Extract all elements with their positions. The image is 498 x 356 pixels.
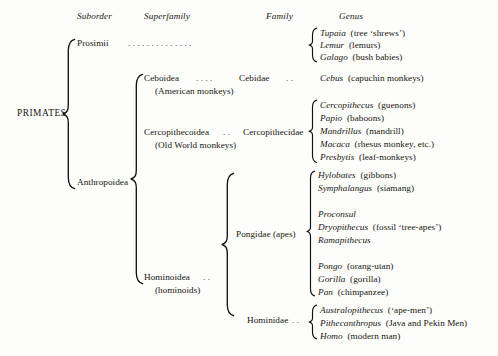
genus-name: Ramapithecus	[318, 235, 371, 245]
leader-hominoidea-family: . .	[203, 272, 210, 282]
genus-row: Macaca (rhesus monkey, etc.)	[320, 139, 434, 149]
classification-chart: Suborder Superfamily Family Genus PRIMAT…	[0, 0, 498, 356]
genus-row: Hylobates (gibbons)	[318, 170, 396, 180]
genus-row: Proconsul	[318, 209, 356, 219]
genus-common: (gibbons)	[358, 170, 396, 180]
genus-common: (mandrill)	[364, 126, 404, 136]
column-header-superfamily: Superfamily	[144, 11, 190, 21]
genus-common: (fossil ‘tree-apes’)	[370, 222, 441, 232]
genus-row: Gorilla (gorilla)	[318, 274, 381, 284]
genus-name: Lemur	[320, 40, 344, 50]
genus-common: (guenons)	[376, 100, 416, 110]
genus-row: Pan (chimpanzee)	[318, 287, 388, 297]
genus-name: Pithecanthropus	[320, 318, 381, 328]
genus-common: (capuchin monkeys)	[346, 73, 424, 83]
leader-cebidae-genus: . .	[286, 73, 293, 83]
brace-pongidae-genera	[306, 170, 316, 298]
genus-common: (rhesus monkey, etc.)	[352, 139, 434, 149]
genus-row: Lemur (lemurs)	[320, 40, 380, 50]
suborder-anthropoidea: Anthropoidea	[77, 177, 128, 187]
family-cercopithecidae: Cercopithecidae	[243, 127, 303, 137]
genus-name: Homo	[320, 331, 343, 341]
superfamily-ceboidea: Ceboidea	[144, 73, 179, 83]
brace-hominoidea	[221, 172, 235, 317]
column-header-suborder: Suborder	[77, 11, 112, 21]
leader-ceboidea-cebidae: . . . .	[196, 73, 212, 83]
genus-name: Cebus	[320, 73, 343, 83]
family-cebidae: Cebidae	[239, 73, 269, 83]
family-pongidae: Pongidae (apes)	[236, 229, 296, 239]
root-label-primates: PRIMATES	[17, 108, 66, 118]
genus-name: Symphalangus	[318, 183, 372, 193]
genus-row: Mandrillus (mandrill)	[320, 126, 404, 136]
brace-anthropoidea	[130, 73, 144, 285]
superfamily-hominoidea: Hominoidea	[144, 272, 190, 282]
brace-cercopithecidae-genera	[308, 99, 318, 164]
column-header-family: Family	[266, 11, 293, 21]
genus-common: (orang-utan)	[345, 261, 394, 271]
genus-row: Symphalangus (siamang)	[318, 183, 414, 193]
superfamily-ceboidea-common: (American monkeys)	[155, 86, 234, 96]
leader-hominidae-genus: . .	[292, 315, 299, 325]
brace-hominidae-genera	[308, 304, 318, 340]
genus-common: (siamang)	[375, 183, 415, 193]
genus-common: (leaf-monkeys)	[357, 152, 416, 162]
genus-row: Pongo (orang-utan)	[318, 261, 393, 271]
genus-name: Galago	[320, 52, 348, 62]
genus-name: Gorilla	[318, 274, 345, 284]
family-hominidae: Hominidae	[247, 315, 288, 325]
genus-common: (baboons)	[345, 113, 385, 123]
genus-name: Australopithecus	[320, 305, 383, 315]
genus-row: Pithecanthropus (Java and Pekin Men)	[320, 318, 467, 328]
genus-name: Tupaia	[320, 28, 346, 38]
leader-prosimii: . . . . . . . . . . . . . .	[128, 38, 191, 48]
genus-name: Presbytis	[320, 152, 354, 162]
genus-common: (bush babies)	[350, 52, 402, 62]
suborder-prosimii: Prosimii	[77, 38, 109, 48]
genus-row: Cebus (capuchin monkeys)	[320, 73, 424, 83]
genus-row: Dryopithecus (fossil ‘tree-apes’)	[318, 222, 441, 232]
genus-common: (chimpanzee)	[335, 287, 388, 297]
genus-row: Ramapithecus	[318, 235, 371, 245]
superfamily-cercopithecoidea-common: (Old World monkeys)	[155, 140, 236, 150]
column-header-genus: Genus	[339, 11, 363, 21]
genus-common: (gorilla)	[348, 274, 381, 284]
genus-common: (modern man)	[345, 331, 400, 341]
genus-name: Pan	[318, 287, 333, 297]
leader-cercopithecoidea-family: . .	[223, 127, 230, 137]
genus-row: Tupaia (tree ‘shrews’)	[320, 28, 405, 38]
genus-name: Papio	[320, 113, 342, 123]
genus-common: (lemurs)	[347, 40, 381, 50]
genus-name: Pongo	[318, 261, 342, 271]
genus-name: Hylobates	[318, 170, 356, 180]
genus-name: Mandrillus	[320, 126, 361, 136]
genus-row: Presbytis (leaf-monkeys)	[320, 152, 416, 162]
genus-name: Proconsul	[318, 209, 356, 219]
genus-row: Papio (baboons)	[320, 113, 384, 123]
superfamily-hominoidea-common: (hominoids)	[155, 285, 200, 295]
genus-common: (Java and Pekin Men)	[384, 318, 468, 328]
genus-name: Cercopithecus	[320, 100, 373, 110]
genus-row: Australopithecus (‘ape-men’)	[320, 305, 432, 315]
genus-row: Galago (bush babies)	[320, 52, 402, 62]
genus-name: Macaca	[320, 139, 350, 149]
genus-row: Cercopithecus (guenons)	[320, 100, 415, 110]
superfamily-cercopithecoidea: Cercopithecoidea	[144, 127, 209, 137]
genus-row: Homo (modern man)	[320, 331, 400, 341]
genus-common: (‘ape-men’)	[385, 305, 432, 315]
genus-name: Dryopithecus	[318, 222, 368, 232]
brace-prosimii-genera	[308, 27, 318, 63]
brace-primates	[62, 38, 76, 190]
genus-common: (tree ‘shrews’)	[348, 28, 405, 38]
